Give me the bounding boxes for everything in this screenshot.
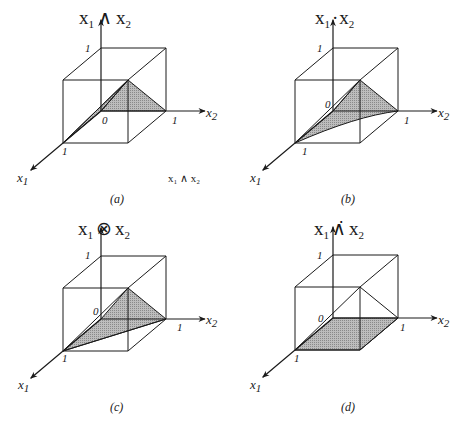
panel-c-tick-zero: 0 [93, 305, 99, 317]
panel-b-x2-label: x2 [437, 105, 450, 122]
panel-c-title: x1⊗x2 [78, 218, 130, 241]
x1-axis [31, 111, 101, 170]
panel-a-x2-label: x2 [205, 105, 218, 122]
panel-b-title: x1·x2 [315, 7, 354, 30]
cube-edge [360, 255, 398, 287]
panel-b-tick-z-one: 1 [317, 42, 323, 54]
panel-c-geometry [31, 228, 205, 379]
panel-d-tick-x2-one: 1 [400, 321, 406, 333]
panel-d-tick-zero: 0 [318, 312, 324, 324]
surface-edge-x2 [360, 287, 398, 318]
panel-d-x2-label: x2 [437, 312, 450, 329]
cube-edge [63, 256, 101, 288]
panel-c-x1-label: x1 [17, 377, 29, 394]
panel-c-tick-z-one: 1 [85, 249, 91, 261]
panel-b-x1-label: x1 [249, 170, 261, 187]
panel-d-geometry [263, 227, 437, 378]
panel-c-caption: (c) [110, 400, 123, 414]
panel-a: x1∧x2 1 0 1 1 x2 x1 x₁ ∧ x₂ (a) [16, 7, 218, 206]
cube-edge [128, 111, 166, 143]
panel-c-tick-x1-one: 1 [62, 352, 68, 364]
panel-a-tick-x1-one: 1 [62, 145, 68, 157]
panel-c-tick-x2-one: 1 [177, 321, 183, 333]
panel-a-x1-label: x1 [16, 170, 28, 187]
panel-d: x1∧̇x2 1 0 1 1 x2 x1 (d) [249, 218, 450, 414]
panel-d-title: x1∧̇x2 [314, 218, 364, 241]
panel-b-tick-x2-one: 1 [404, 114, 410, 126]
panel-d-tick-z-one: 1 [317, 249, 323, 261]
surface-region [295, 318, 398, 350]
cube-edge [295, 48, 333, 80]
panel-b-geometry [263, 20, 437, 171]
panel-c: x1⊗x2 1 0 1 1 x2 x1 (c) [17, 218, 218, 414]
panel-a-tick-z-one: 1 [85, 42, 91, 54]
panel-a-geometry [31, 20, 205, 171]
cube-edge [295, 255, 333, 287]
panel-a-tick-zero: 0 [102, 114, 108, 126]
panel-b: x1·x2 1 0 1 1 x2 x1 (b) [249, 7, 450, 206]
cube-edge [128, 48, 166, 80]
panel-b-caption: (b) [341, 192, 355, 206]
cube-edge [360, 48, 398, 80]
surface-region [101, 80, 166, 111]
t-norm-figure: x1∧x2 1 0 1 1 x2 x1 x₁ ∧ x₂ (a) x1·x2 1 … [0, 0, 465, 424]
panel-c-x2-label: x2 [205, 312, 218, 329]
panel-a-note: x₁ ∧ x₂ [168, 172, 200, 184]
panel-d-tick-x1-one: 1 [294, 352, 300, 364]
panel-b-tick-x1-one: 1 [302, 145, 308, 157]
cube-edge [63, 48, 101, 80]
x1-axis [263, 111, 333, 170]
panel-a-title: x1∧x2 [79, 7, 131, 30]
panel-a-caption: (a) [110, 192, 124, 206]
panel-d-x1-label: x1 [249, 377, 261, 394]
panel-b-tick-zero: 0 [325, 98, 331, 110]
cube-edge [128, 256, 166, 288]
panel-a-tick-x2-one: 1 [172, 114, 178, 126]
x1-axis [31, 319, 101, 378]
panel-d-caption: (d) [341, 400, 355, 414]
